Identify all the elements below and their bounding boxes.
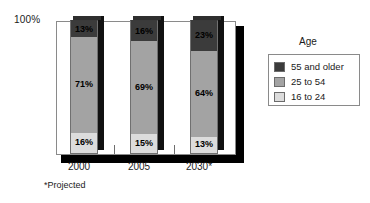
bar-segment-value-label: 23% <box>195 31 213 40</box>
legend-item-older[interactable]: 55 and older <box>274 59 359 74</box>
footnote-projected: *Projected <box>44 180 86 190</box>
y-axis-max-label: 100% <box>14 14 40 25</box>
bar-segment-mid[interactable]: 69% <box>130 41 158 133</box>
plot-frame: 13% 71% 16% 16% 69% <box>56 21 236 155</box>
plot-area: 13% 71% 16% 16% 69% <box>56 21 236 155</box>
bar-stack-2030: 23% 64% 13% <box>190 20 218 154</box>
legend-label-older: 55 and older <box>291 61 344 72</box>
bar-segment-mid[interactable]: 71% <box>70 37 98 132</box>
bar-segment-young[interactable]: 13% <box>190 137 218 154</box>
bar-segment-value-label: 69% <box>135 83 153 92</box>
bar-segment-value-label: 13% <box>75 25 93 34</box>
bar-segment-young[interactable]: 15% <box>130 134 158 154</box>
bar-segment-value-label: 16% <box>135 27 153 36</box>
bar-stack-2000: 13% 71% 16% <box>70 20 98 154</box>
category-label-2000: 2000 <box>56 161 102 172</box>
plot-3d-shadow-right <box>236 26 244 160</box>
legend-swatch-mid-icon <box>274 77 285 87</box>
legend-item-mid[interactable]: 25 to 54 <box>274 74 359 89</box>
legend-label-mid: 25 to 54 <box>291 76 325 87</box>
axis-tick <box>114 145 115 154</box>
legend-title: Age <box>299 36 317 47</box>
bar-group-2005[interactable]: 16% 69% 15% <box>130 20 164 154</box>
bar-3d-side-face <box>218 16 224 150</box>
bar-segment-mid[interactable]: 64% <box>190 51 218 137</box>
legend-swatch-young-icon <box>274 92 285 102</box>
axis-tick <box>174 145 175 154</box>
bar-group-2000[interactable]: 13% 71% 16% <box>70 20 104 154</box>
bar-segment-value-label: 71% <box>75 80 93 89</box>
legend-swatch-older-icon <box>274 62 285 72</box>
bar-segment-older[interactable]: 16% <box>130 20 158 41</box>
legend-item-young[interactable]: 16 to 24 <box>274 89 359 104</box>
category-label-2005: 2005 <box>116 161 162 172</box>
legend-box: 55 and older 25 to 54 16 to 24 <box>268 54 360 106</box>
legend-label-young: 16 to 24 <box>291 91 325 102</box>
bar-3d-side-face <box>158 16 164 150</box>
bar-segment-older[interactable]: 13% <box>70 20 98 37</box>
bar-segment-value-label: 13% <box>195 140 213 149</box>
bar-segment-older[interactable]: 23% <box>190 20 218 51</box>
bar-segment-value-label: 64% <box>195 89 213 98</box>
bar-segment-value-label: 16% <box>75 138 93 147</box>
bar-stack-2005: 16% 69% 15% <box>130 20 158 154</box>
category-label-2030: 2030* <box>176 161 222 172</box>
bar-segment-value-label: 15% <box>135 139 153 148</box>
bar-group-2030[interactable]: 23% 64% 13% <box>190 20 224 154</box>
bar-3d-side-face <box>98 16 104 150</box>
bar-segment-young[interactable]: 16% <box>70 133 98 154</box>
